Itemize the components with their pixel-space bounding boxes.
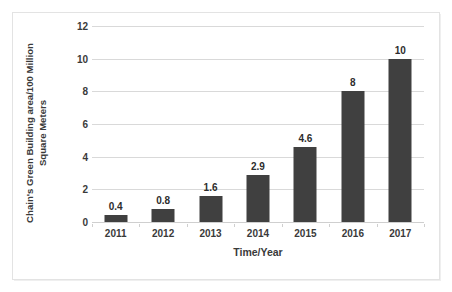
- bar-group-2014: 2.9: [234, 26, 281, 222]
- bar-value-label-2017: 10: [395, 45, 406, 56]
- x-tick-mark-2014: [234, 224, 235, 227]
- y-axis-tick-labels: 024681012: [60, 26, 88, 222]
- bar-2011[interactable]: [104, 215, 127, 222]
- bar-group-2011: 0.4: [92, 26, 139, 222]
- x-tick-label-2017: 2017: [377, 228, 424, 239]
- y-tick-label-0: 0: [62, 217, 88, 228]
- x-tick-mark-2016: [329, 224, 330, 227]
- bar-2016[interactable]: [341, 91, 364, 222]
- bar-group-2016: 8: [329, 26, 376, 222]
- y-axis-title-line-2: Square Meters: [36, 43, 49, 223]
- bar-group-2015: 4.6: [282, 26, 329, 222]
- x-tick-mark-end: [424, 224, 425, 227]
- x-tick-mark-2011: [92, 224, 93, 227]
- bar-chart-figure: Chain's Green Building area/100 Million …: [0, 0, 452, 292]
- x-tick-label-2013: 2013: [187, 228, 234, 239]
- x-axis-tick-labels: 2011201220132014201520162017: [92, 224, 424, 242]
- bar-value-label-2015: 4.6: [298, 133, 312, 144]
- bar-2014[interactable]: [246, 175, 269, 222]
- bar-value-label-2014: 2.9: [251, 161, 265, 172]
- x-tick-label-2015: 2015: [282, 228, 329, 239]
- y-tick-label-4: 4: [62, 151, 88, 162]
- x-tick-mark-2012: [139, 224, 140, 227]
- y-tick-label-2: 2: [62, 184, 88, 195]
- gridline-0: [92, 222, 424, 223]
- x-tick-mark-2015: [282, 224, 283, 227]
- plot-area: 0.40.81.62.94.6810: [92, 26, 424, 222]
- y-axis-title-line-1: Chain's Green Building area/100 Million: [23, 43, 36, 223]
- bar-2013[interactable]: [199, 196, 222, 222]
- x-tick-mark-2017: [377, 224, 378, 227]
- y-tick-label-6: 6: [62, 119, 88, 130]
- bar-value-label-2016: 8: [350, 77, 356, 88]
- y-tick-label-8: 8: [62, 86, 88, 97]
- bar-value-label-2011: 0.4: [109, 201, 123, 212]
- y-tick-label-12: 12: [62, 21, 88, 32]
- bar-value-label-2012: 0.8: [156, 195, 170, 206]
- bar-group-2013: 1.6: [187, 26, 234, 222]
- bar-2015[interactable]: [294, 147, 317, 222]
- x-tick-mark-2013: [187, 224, 188, 227]
- bar-2012[interactable]: [152, 209, 175, 222]
- y-tick-label-10: 10: [62, 53, 88, 64]
- bar-group-2012: 0.8: [139, 26, 186, 222]
- bar-value-label-2013: 1.6: [204, 182, 218, 193]
- x-tick-label-2011: 2011: [92, 228, 139, 239]
- x-axis-title: Time/Year: [92, 246, 424, 258]
- bar-group-2017: 10: [377, 26, 424, 222]
- x-tick-label-2016: 2016: [329, 228, 376, 239]
- x-tick-label-2014: 2014: [234, 228, 281, 239]
- y-axis-title: Chain's Green Building area/100 Million …: [14, 14, 58, 252]
- x-tick-label-2012: 2012: [139, 228, 186, 239]
- bar-2017[interactable]: [389, 59, 412, 222]
